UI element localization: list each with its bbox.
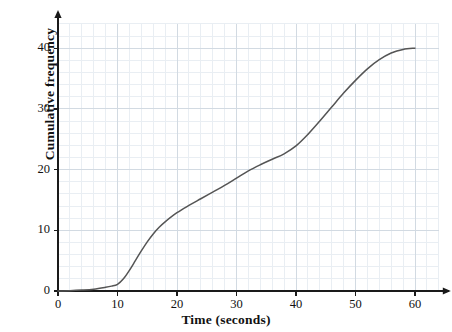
y-tick-label: 10 (20, 222, 50, 237)
chart-plot-area (0, 0, 452, 332)
x-tick-label: 40 (281, 297, 311, 312)
x-tick-label: 30 (222, 297, 252, 312)
y-tick-label: 0 (20, 283, 50, 298)
x-axis-title: Time (seconds) (0, 312, 452, 328)
x-tick-label: 0 (43, 297, 73, 312)
x-tick-label: 50 (341, 297, 371, 312)
cumulative-frequency-chart: 0102030405060 010203040 Time (seconds) C… (0, 0, 452, 332)
x-tick-label: 60 (400, 297, 430, 312)
grid-minor-lines (58, 24, 439, 291)
x-tick-label: 10 (103, 297, 133, 312)
x-tick-label: 20 (162, 297, 192, 312)
y-axis-title: Cumulative frequency (42, 0, 58, 224)
chart-tick-marks (54, 48, 416, 295)
